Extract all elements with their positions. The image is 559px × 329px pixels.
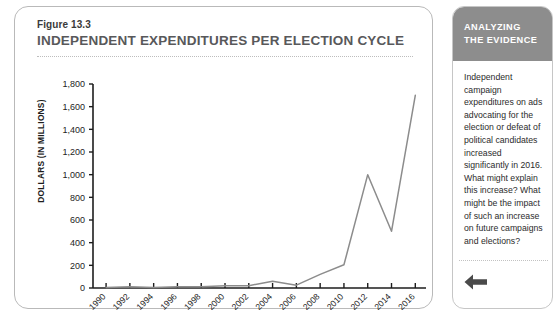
y-axis-tick-label: 600	[70, 215, 85, 225]
y-axis-tick-label: 200	[70, 261, 85, 271]
y-axis-tick-label: 400	[70, 238, 85, 248]
arrow-left-glyph	[465, 275, 488, 290]
x-axis-tick-label: 1992	[111, 291, 132, 310]
sidebar-header-line-1: ANALYZING	[464, 21, 553, 34]
sidebar-header-line-2: THE EVIDENCE	[464, 34, 553, 47]
x-axis-tick-label: 1994	[134, 291, 155, 310]
y-axis-tick-label: 1,600	[62, 102, 85, 112]
y-axis-tick-label: 1,400	[62, 125, 85, 135]
chart-plot-area: 02004006008001,0001,2001,4001,6001,800 1…	[15, 7, 434, 310]
x-axis-tick-label: 1998	[182, 291, 203, 310]
x-axis-tick-label: 1996	[158, 291, 179, 310]
y-axis-tick-label: 1,000	[62, 170, 85, 180]
x-axis-tick-label: 2002	[230, 291, 251, 310]
chart-panel: Figure 13.3 INDEPENDENT EXPENDITURES PER…	[14, 6, 433, 309]
y-axis-tick-label: 800	[70, 193, 85, 203]
y-axis-title: DOLLARS (IN MILLIONS)	[36, 76, 46, 226]
x-axis-tick-label: 1990	[87, 291, 108, 310]
x-axis-tick-label: 2012	[349, 291, 370, 310]
y-axis-tick-label: 1,200	[62, 147, 85, 157]
sidebar-divider	[459, 260, 548, 261]
x-axis-tick-label: 2004	[253, 291, 274, 310]
line-chart-svg: 02004006008001,0001,2001,4001,6001,800 1…	[15, 7, 434, 310]
x-axis-tick-label: 2008	[301, 291, 322, 310]
y-axis-tick-labels: 02004006008001,0001,2001,4001,6001,800	[62, 79, 85, 293]
x-axis-tick-labels: 1990199219941996199820002002200420062008…	[87, 291, 417, 310]
sidebar-body-text: Independent campaign expenditures on ads…	[464, 71, 546, 247]
y-axis-tick-label: 0	[80, 283, 85, 293]
figure-root: Figure 13.3 INDEPENDENT EXPENDITURES PER…	[0, 0, 559, 329]
x-axis-tick-label: 2010	[325, 291, 346, 310]
y-axis-tick-label: 1,800	[62, 79, 85, 89]
x-axis-tick-label: 2014	[372, 291, 393, 310]
data-series-line	[106, 95, 415, 287]
x-axis-tick-label: 2016	[396, 291, 417, 310]
analyzing-evidence-panel: ANALYZING THE EVIDENCE Independent campa…	[452, 6, 553, 309]
arrow-left-icon[interactable]	[463, 271, 489, 293]
x-axis-tick-label: 2006	[277, 291, 298, 310]
sidebar-header: ANALYZING THE EVIDENCE	[453, 7, 553, 61]
x-axis-tick-label: 2000	[206, 291, 227, 310]
